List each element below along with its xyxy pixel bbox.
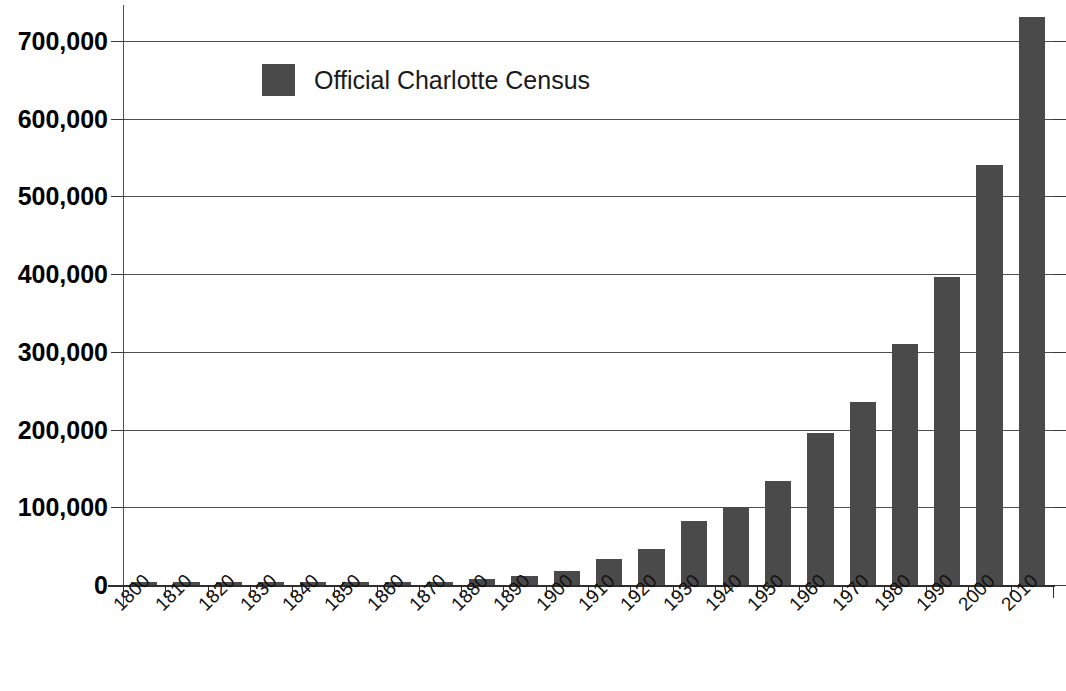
y-axis-tick-right (1053, 430, 1066, 431)
x-axis-tick (208, 585, 209, 598)
x-axis-tick (842, 585, 843, 598)
y-axis-tick-label: 400,000 (0, 260, 108, 289)
legend-color-swatch (262, 64, 295, 96)
bar (976, 165, 1002, 585)
y-axis-tick-right (1053, 196, 1066, 197)
y-axis-tick-label: 200,000 (0, 415, 108, 444)
x-axis-tick (715, 585, 716, 598)
bar (807, 433, 833, 585)
bar (850, 402, 876, 585)
bar (934, 277, 960, 585)
y-axis-tick-label: 100,000 (0, 493, 108, 522)
x-axis-tick (1011, 585, 1012, 598)
x-axis-tick (503, 585, 504, 598)
x-axis-tick (250, 585, 251, 598)
x-axis-tick (1053, 585, 1054, 598)
x-axis-tick (546, 585, 547, 598)
x-axis-tick (968, 585, 969, 598)
x-axis-tick (461, 585, 462, 598)
x-axis-tick (673, 585, 674, 598)
bar (765, 481, 791, 585)
y-axis-tick-label: 700,000 (0, 27, 108, 56)
x-axis-tick (292, 585, 293, 598)
y-axis-tick-right (1053, 274, 1066, 275)
y-axis-tick-right (1053, 119, 1066, 120)
x-axis-tick (419, 585, 420, 598)
x-axis-tick (884, 585, 885, 598)
x-axis-tick (630, 585, 631, 598)
x-axis-tick (926, 585, 927, 598)
chart-legend: Official Charlotte Census (262, 64, 590, 96)
x-axis-tick (377, 585, 378, 598)
x-axis-tick (334, 585, 335, 598)
y-axis-tick-label: 500,000 (0, 182, 108, 211)
bar (892, 344, 918, 585)
x-axis-tick (799, 585, 800, 598)
x-axis-tick (123, 585, 124, 598)
x-axis-tick (588, 585, 589, 598)
y-axis-tick-label: 0 (0, 571, 108, 600)
x-axis-tick (165, 585, 166, 598)
y-axis-tick-label: 600,000 (0, 104, 108, 133)
y-axis-tick-right (1053, 507, 1066, 508)
y-axis-tick-right (1053, 352, 1066, 353)
bar (1019, 17, 1045, 585)
x-axis-tick (757, 585, 758, 598)
legend-label: Official Charlotte Census (314, 66, 590, 95)
y-axis-tick-right (1053, 41, 1066, 42)
y-axis-tick-label: 300,000 (0, 337, 108, 366)
